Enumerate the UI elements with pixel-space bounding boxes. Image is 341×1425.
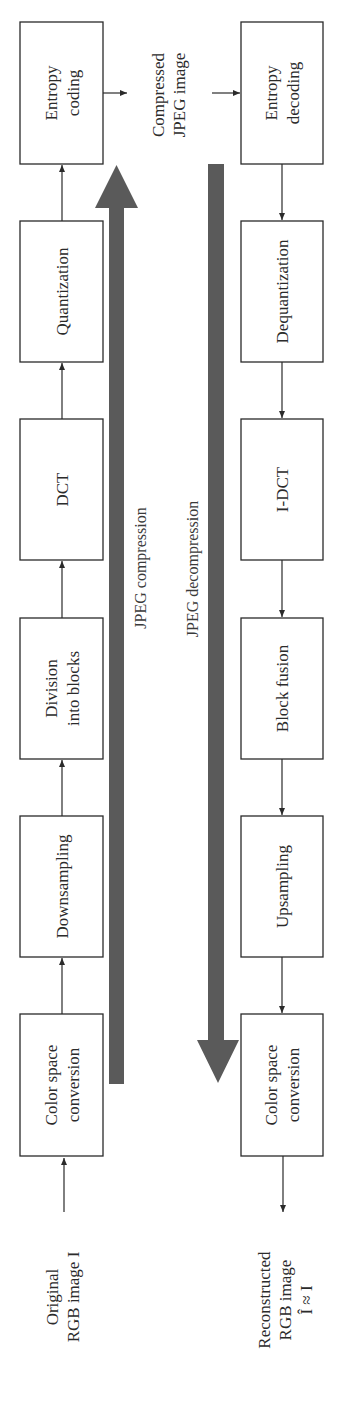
output-image-label: Î ≈ I xyxy=(297,1285,316,1314)
color-space-conversion-2-label: conversion xyxy=(284,1047,303,1122)
output-image-label: RGB image xyxy=(276,1260,295,1341)
block-fusion-label: Block fusion xyxy=(273,644,292,732)
upsampling-label: Upsampling xyxy=(273,844,292,928)
entropy-decoding-label: decoding xyxy=(284,61,303,124)
color-space-conversion-label: conversion xyxy=(64,1047,83,1122)
division-into-blocks-block: Divisioninto blocks xyxy=(20,618,103,759)
color-space-conversion-block: Color spaceconversion xyxy=(20,1014,103,1156)
i-dct-block: I-DCT xyxy=(241,419,323,560)
input-image-label: RGB image I xyxy=(64,1251,83,1342)
color-space-conversion-2-label: Color space xyxy=(262,1045,281,1126)
entropy-coding-label: coding xyxy=(64,69,83,116)
dct-label: DCT xyxy=(53,472,72,507)
output-image-label: Reconstructed xyxy=(255,1251,274,1349)
entropy-decoding-label: Entropy xyxy=(262,65,281,120)
entropy-coding-block: Entropycoding xyxy=(20,22,103,164)
division-into-blocks-label: Division xyxy=(42,659,61,718)
compressed-image-label: Compressed xyxy=(149,52,168,137)
entropy-coding-label: Entropy xyxy=(42,65,61,120)
i-dct-label: I-DCT xyxy=(273,466,292,512)
flow-arrows xyxy=(95,164,239,1084)
jpeg-pipeline-diagram: Color spaceconversionDownsamplingDivisio… xyxy=(0,0,341,1425)
quantization-block: Quantization xyxy=(20,221,103,362)
entropy-decoding-block: Entropydecoding xyxy=(241,22,323,164)
color-space-conversion-2-block: Color spaceconversion xyxy=(241,1014,323,1156)
quantization-label: Quantization xyxy=(53,247,72,335)
dequantization-label: Dequantization xyxy=(273,239,292,343)
compressed-image-label: JPEG image xyxy=(170,53,189,138)
downsampling-block: Downsampling xyxy=(20,816,103,957)
dct-block: DCT xyxy=(20,419,103,560)
upsampling-block: Upsampling xyxy=(241,816,323,957)
compression-flow-label: JPEG compression xyxy=(132,507,150,628)
dequantization-block: Dequantization xyxy=(241,221,323,362)
decompression-direction-arrow-icon xyxy=(197,164,239,1083)
block-fusion-block: Block fusion xyxy=(241,618,323,759)
downsampling-label: Downsampling xyxy=(53,834,72,938)
input-image-label: Original xyxy=(43,1268,62,1325)
decompression-flow-label: JPEG decompression xyxy=(184,501,202,637)
color-space-conversion-label: Color space xyxy=(42,1045,61,1126)
division-into-blocks-label: into blocks xyxy=(64,651,83,726)
